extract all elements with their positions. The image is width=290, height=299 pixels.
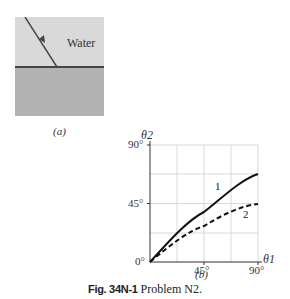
panel-b-caption: (b) — [195, 268, 208, 280]
refraction-angle-chart — [0, 0, 290, 299]
y-tick-45: 45° — [128, 197, 143, 209]
figure-caption: Fig. 34N-1 Problem N2. — [88, 282, 202, 297]
curve-1-label: 1 — [215, 180, 221, 192]
curve-2-label: 2 — [243, 208, 249, 220]
x-axis-label: θ1 — [263, 252, 275, 267]
y-tick-0: 0° — [135, 255, 145, 267]
figure-caption-text: Problem N2. — [141, 282, 202, 296]
y-tick-90: 90° — [128, 138, 143, 150]
figure-number: Fig. 34N-1 — [88, 283, 138, 295]
